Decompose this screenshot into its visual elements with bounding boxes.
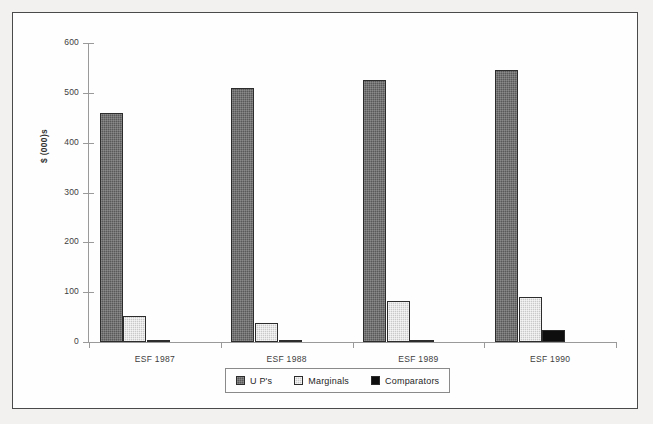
bar-marginals-esf-1989: [387, 301, 410, 342]
y-tick-label: 100: [35, 286, 79, 296]
chart-legend: U P'sMarginalsComparators: [225, 368, 450, 393]
bars-layer: [89, 43, 616, 342]
legend-swatch-icon: [236, 376, 245, 385]
plot-area: $ (000)s 6005004003002001000 ESF 1987ESF…: [13, 13, 639, 410]
bar-group: [221, 43, 353, 342]
bar-group: [484, 43, 616, 342]
legend-item-u-p-s: U P's: [236, 376, 272, 386]
y-tick-label: 600: [35, 37, 79, 47]
bar-u-p-s-esf-1988: [231, 88, 254, 342]
x-tick-mark: [89, 342, 90, 348]
legend-item-marginals: Marginals: [294, 376, 349, 386]
x-tick-label: ESF 1988: [221, 354, 353, 364]
y-tick-label: 400: [35, 137, 79, 147]
x-tick-label: ESF 1987: [89, 354, 221, 364]
legend-swatch-icon: [371, 376, 380, 385]
x-tick-mark: [484, 342, 485, 348]
x-tick-mark: [353, 342, 354, 348]
bar-comparators-esf-1987: [147, 340, 170, 342]
bar-u-p-s-esf-1989: [363, 80, 386, 342]
scanned-page: $ (000)s 6005004003002001000 ESF 1987ESF…: [0, 0, 653, 424]
bar-group: [89, 43, 221, 342]
legend-item-comparators: Comparators: [371, 376, 439, 386]
bar-marginals-esf-1987: [123, 316, 146, 342]
chart-figure-frame: $ (000)s 6005004003002001000 ESF 1987ESF…: [12, 12, 638, 409]
y-tick-label: 0: [35, 336, 79, 346]
legend-swatch-icon: [294, 376, 303, 385]
bar-comparators-esf-1989: [410, 340, 433, 342]
legend-label: Comparators: [385, 376, 439, 386]
bar-u-p-s-esf-1990: [495, 70, 518, 342]
bar-comparators-esf-1990: [542, 330, 565, 342]
bar-marginals-esf-1988: [255, 323, 278, 342]
y-tick-label: 500: [35, 87, 79, 97]
x-tick-label: ESF 1990: [484, 354, 616, 364]
y-tick-label: 200: [35, 236, 79, 246]
bar-marginals-esf-1990: [519, 297, 542, 342]
legend-label: Marginals: [308, 376, 349, 386]
bar-u-p-s-esf-1987: [100, 113, 123, 342]
legend-label: U P's: [250, 376, 272, 386]
x-tick-mark: [616, 342, 617, 348]
x-tick-label: ESF 1989: [353, 354, 485, 364]
x-tick-mark: [221, 342, 222, 348]
bar-comparators-esf-1988: [279, 340, 302, 342]
bar-group: [353, 43, 485, 342]
y-tick-label: 300: [35, 187, 79, 197]
